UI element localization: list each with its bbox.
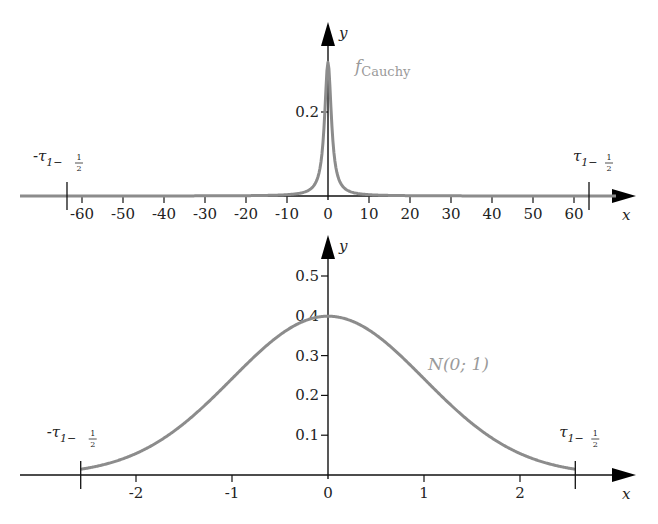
tau-frac-num: 1 [606, 153, 611, 162]
y-tick-label: 0.2 [295, 103, 319, 121]
tau-label: τ1− [573, 147, 598, 169]
x-tick-label: 50 [523, 205, 542, 223]
cauchy-plot: xy-60-50-40-30-20-1001020304050600.2-τ1−… [20, 22, 636, 224]
x-tick-label: 60 [564, 205, 583, 223]
normal-plot: xy-2-10120.10.20.30.40.5-τ1−12τ1−12N(0; … [20, 235, 636, 503]
y-axis-arrow-icon [321, 22, 335, 46]
y-axis-label: y [338, 24, 348, 42]
x-tick-label: -60 [70, 205, 94, 223]
y-axis-label: y [338, 237, 348, 255]
x-tick-label: 10 [359, 205, 378, 223]
curve-cauchy [20, 62, 616, 196]
x-tick-label: 0 [323, 484, 333, 502]
curve-label-cauchy: fCauchy [353, 56, 411, 79]
x-tick-label: 30 [441, 205, 460, 223]
y-tick-label: 0.1 [295, 426, 319, 444]
tau-frac-num: 1 [593, 429, 598, 438]
tau-label: τ1− [559, 423, 584, 445]
tau-frac-den: 2 [606, 164, 611, 173]
x-tick-label: -1 [225, 484, 240, 502]
tau-frac-den: 2 [90, 440, 95, 449]
x-axis-label: x [622, 485, 631, 503]
tau-frac-num: 1 [90, 429, 95, 438]
y-tick-label: 0.2 [295, 386, 319, 404]
curve-label-normal: N(0; 1) [427, 354, 489, 374]
y-tick-label: 0.3 [295, 347, 319, 365]
tau-frac-den: 2 [593, 440, 598, 449]
x-tick-label: -20 [234, 205, 258, 223]
tau-label: -τ1− [33, 147, 63, 169]
x-tick-label: -10 [275, 205, 299, 223]
tau-frac-den: 2 [76, 164, 81, 173]
x-tick-label: 40 [482, 205, 501, 223]
y-axis-arrow-icon [321, 235, 335, 259]
x-tick-label: 2 [515, 484, 525, 502]
x-tick-label: 1 [419, 484, 429, 502]
x-tick-label: 0 [323, 205, 333, 223]
figure: xy-60-50-40-30-20-1001020304050600.2-τ1−… [0, 0, 658, 524]
x-tick-label: -40 [152, 205, 176, 223]
x-axis-arrow-icon [612, 468, 636, 482]
plots-canvas: xy-60-50-40-30-20-1001020304050600.2-τ1−… [0, 0, 658, 524]
tau-label: -τ1− [47, 423, 77, 445]
y-tick-label: 0.5 [295, 267, 319, 285]
x-tick-label: -30 [193, 205, 217, 223]
x-axis-label: x [622, 206, 631, 224]
tau-frac-num: 1 [76, 153, 81, 162]
x-tick-label: -2 [129, 484, 144, 502]
x-tick-label: 20 [400, 205, 419, 223]
x-tick-label: -50 [111, 205, 135, 223]
